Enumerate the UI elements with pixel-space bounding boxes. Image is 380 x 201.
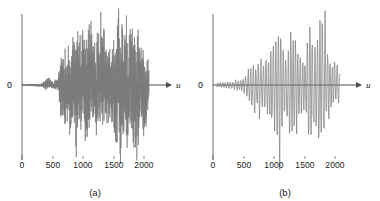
panel-b-plot (190, 0, 380, 170)
panel-a-x-axis-variable: u (176, 80, 181, 90)
panel-a-xtick-1000: 1000 (73, 160, 92, 170)
panel-b-caption: (b) (190, 187, 380, 199)
panel-a-xtick-1500: 1500 (104, 160, 123, 170)
panel-b-x-axis-arrow (356, 82, 362, 88)
panel-a-xtick-0: 0 (20, 160, 25, 170)
signal-figure: 0 u 0 500 1000 1500 2000 (a) (0, 0, 380, 201)
panel-b-xtick-0: 0 (211, 160, 216, 170)
panel-a-svg (0, 0, 190, 170)
panel-a-x-tick-labels: 0 500 1000 1500 2000 (0, 160, 190, 176)
panel-b-waveform (217, 11, 340, 170)
panel-a-xtick-2000: 2000 (134, 160, 153, 170)
panel-a: 0 u 0 500 1000 1500 2000 (a) (0, 0, 190, 201)
panel-a-y-zero-label: 0 (7, 80, 12, 90)
panel-b-xtick-2000: 2000 (325, 160, 344, 170)
panel-b-xtick-1500: 1500 (295, 160, 314, 170)
panel-a-waveform (22, 8, 149, 163)
panel-b-xtick-1000: 1000 (264, 160, 283, 170)
panel-a-caption: (a) (0, 187, 190, 199)
panel-b-svg (190, 0, 380, 170)
panel-a-xtick-500: 500 (46, 160, 60, 170)
panel-b: 0 u 0 500 1000 1500 2000 (b) (190, 0, 380, 201)
panel-a-plot (0, 0, 190, 170)
panel-b-xtick-500: 500 (237, 160, 251, 170)
panel-b-x-tick-labels: 0 500 1000 1500 2000 (190, 160, 380, 176)
panel-a-x-axis-arrow (166, 82, 172, 88)
panel-b-x-axis-variable: u (366, 80, 371, 90)
panel-b-y-zero-label: 0 (198, 80, 203, 90)
